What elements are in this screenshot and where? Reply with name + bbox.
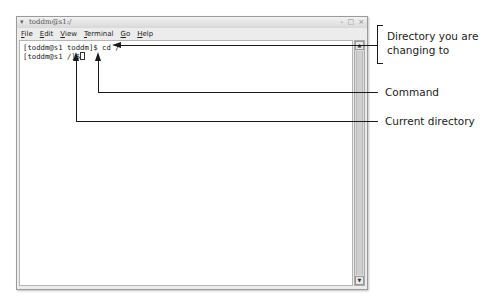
menu-go-rest: o [126,30,130,38]
window-controls: – □ × [340,17,364,27]
menu-bar: File Edit View Terminal Go Help [17,28,367,39]
window-menu-icon[interactable]: ▾ [20,18,24,27]
menu-terminal[interactable]: Terminal [84,29,114,39]
scroll-down-arrow-icon[interactable]: ▼ [355,276,364,285]
callout-bracket-bottom [377,63,383,64]
menu-help[interactable]: Help [137,29,153,39]
terminal-window: ▾ toddm@s1:/ – □ × File Edit View Termin… [16,16,368,290]
callout-line-directory [120,45,378,46]
minimize-icon[interactable]: – [340,17,344,27]
menu-view-rest: iew [65,30,77,38]
terminal-area[interactable]: [toddm@s1 toddm]$ cd / [toddm@s1 /]$ [19,40,353,286]
menu-file[interactable]: File [21,29,33,39]
callout-line-command-horizontal [98,92,378,93]
callout-bracket-top [377,25,383,26]
menu-edit-rest: dit [44,30,53,38]
menu-go[interactable]: Go [121,29,131,39]
cursor [80,52,85,60]
callout-bracket-vertical [377,25,378,63]
terminal-line-1: [toddm@s1 toddm]$ cd / [23,43,120,52]
callout-label-directory-line1: Directory you are [387,30,478,43]
callout-line-current-horizontal [76,121,378,122]
close-icon[interactable]: × [358,17,364,27]
callout-line-current-vertical [76,60,77,122]
arrow-up-icon [73,52,79,61]
arrow-left-icon [112,42,121,48]
callout-label-directory-line2: changing to [387,44,449,57]
menu-view[interactable]: View [60,29,77,39]
arrow-up-icon [95,52,101,61]
callout-label-current-directory: Current directory [385,115,475,128]
callout-line-command-vertical [98,60,99,93]
scrollbar-thumb[interactable] [356,51,363,275]
maximize-icon[interactable]: □ [348,17,355,27]
menu-file-rest: ile [25,30,33,38]
menu-terminal-rest: erminal [87,30,114,38]
prompt: [toddm@s1 /]$ [23,52,80,61]
menu-edit[interactable]: Edit [40,29,54,39]
window-title: toddm@s1:/ [29,18,71,27]
menu-help-rest: elp [143,30,154,38]
vertical-scrollbar[interactable]: ▲ ▼ [354,40,365,286]
callout-label-command: Command [385,86,439,99]
